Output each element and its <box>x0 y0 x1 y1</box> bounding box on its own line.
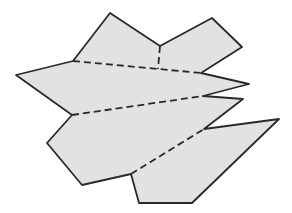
net-diagram <box>0 0 292 213</box>
net-face-fill <box>16 13 279 203</box>
net-svg <box>0 0 292 213</box>
